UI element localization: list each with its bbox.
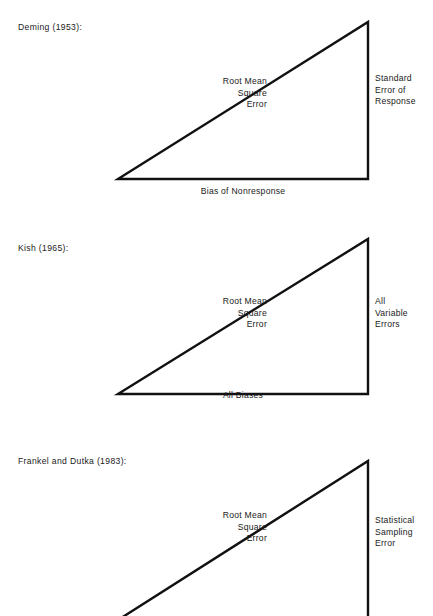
base-leg-label-deming: Bias of Nonresponse: [118, 186, 368, 198]
vert-label-line-1: Standard: [375, 73, 433, 85]
vert-label-line-3: Errors: [375, 319, 433, 331]
figure-kish: Kish (1965): Root Mean Square Error All …: [0, 210, 433, 420]
vertical-leg-label-frankel-dutka: Statistical Sampling Error: [375, 515, 433, 550]
vert-label-line-3: Error: [375, 538, 433, 550]
hyp-label-line-1: Root Mean: [155, 510, 267, 522]
hyp-label-line-1: Root Mean: [155, 296, 267, 308]
vert-label-line-1: Statistical: [375, 515, 433, 527]
vertical-leg-label-kish: All Variable Errors: [375, 296, 433, 331]
hyp-label-line-3: Error: [155, 99, 267, 111]
document-page: Deming (1953): Root Mean Square Error St…: [0, 0, 433, 616]
hypotenuse-label-frankel-dutka: Root Mean Square Error: [155, 510, 267, 545]
vert-label-line-2: Variable: [375, 308, 433, 320]
hyp-label-line-2: Square: [155, 308, 267, 320]
figure-deming: Deming (1953): Root Mean Square Error St…: [0, 0, 433, 210]
hypotenuse-label-kish: Root Mean Square Error: [155, 296, 267, 331]
hyp-label-line-3: Error: [155, 533, 267, 545]
hyp-label-line-2: Square: [155, 522, 267, 534]
figure-frankel-dutka: Frankel and Dutka (1983): Root Mean Squa…: [0, 420, 433, 616]
vert-label-line-1: All: [375, 296, 433, 308]
hyp-label-line-1: Root Mean: [155, 76, 267, 88]
hyp-label-line-3: Error: [155, 319, 267, 331]
hypotenuse-label-deming: Root Mean Square Error: [155, 76, 267, 111]
base-leg-label-kish: All Biases: [118, 390, 368, 402]
vertical-leg-label-deming: Standard Error of Response: [375, 73, 433, 108]
hyp-label-line-2: Square: [155, 88, 267, 100]
vert-label-line-3: Response: [375, 96, 433, 108]
vert-label-line-2: Sampling: [375, 527, 433, 539]
vert-label-line-2: Error of: [375, 85, 433, 97]
